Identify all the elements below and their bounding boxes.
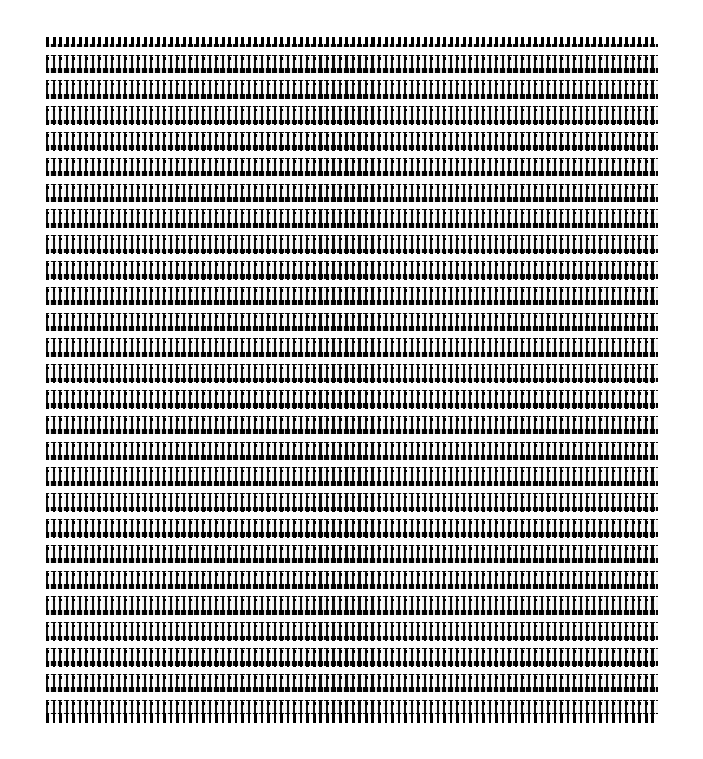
dense-data-table[interactable]: [46, 37, 658, 723]
table-body[interactable]: [46, 44, 658, 723]
table-description: Extremely zoomed-out dense data table re…: [0, 0, 1, 1]
table-footer-row[interactable]: [46, 714, 658, 723]
band-body-label: alternating data bands: [0, 0, 1, 1]
table-header-row[interactable]: [46, 37, 658, 44]
content-legibility: illegible: [0, 0, 1, 1]
page-canvas: Extremely zoomed-out dense data table re…: [0, 0, 703, 759]
margin-label: white page margin: [0, 0, 1, 1]
header-strip-label: column header strip: [0, 0, 1, 1]
row-boundary-dots-layer: [46, 44, 658, 723]
footer-strip-label: table bottom edge: [0, 0, 1, 1]
